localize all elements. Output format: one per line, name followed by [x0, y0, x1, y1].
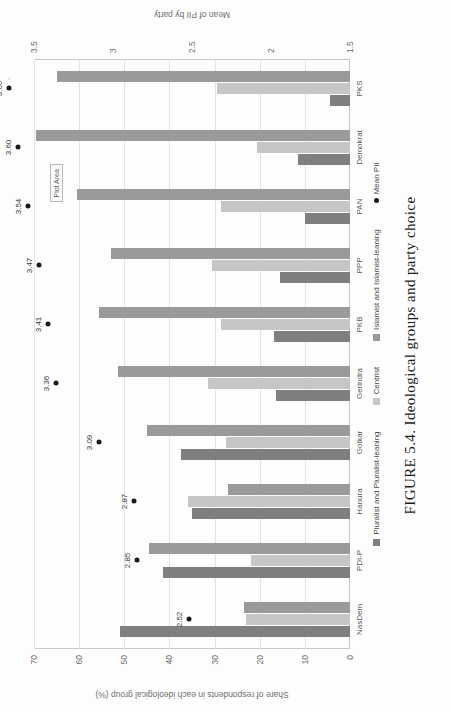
mean-pii-point — [6, 86, 11, 91]
figure-caption: FIGURE 5.4. Ideological groups and party… — [402, 0, 419, 711]
y-axis-title-right: Mean of PII by party — [154, 10, 230, 20]
bar-group: PKB — [34, 295, 350, 354]
bar-group: Golkar — [34, 413, 350, 472]
bar-group: PAN — [34, 177, 350, 236]
y-tick-label-left: 40 — [164, 655, 174, 664]
category-label: Hanura — [355, 472, 364, 531]
legend-label: Centrist — [372, 367, 381, 395]
y-tick-label-left: 60 — [74, 655, 84, 664]
bar-series-2 — [118, 366, 350, 377]
mean-pii-point — [186, 617, 191, 622]
bar-series-1 — [246, 614, 350, 625]
bar-series-0 — [276, 390, 350, 401]
plot-area-callout: Plot Area — [50, 164, 63, 202]
bar-series-1 — [221, 319, 350, 330]
bar-stack — [34, 413, 350, 472]
bar-series-0 — [192, 508, 350, 519]
mean-pii-point — [54, 381, 59, 386]
bar-series-0 — [274, 331, 350, 342]
mean-pii-point — [134, 558, 139, 563]
mean-pii-point — [96, 440, 101, 445]
bar-series-0 — [120, 626, 350, 637]
legend-item: Centrist — [372, 367, 381, 406]
bar-series-0 — [305, 213, 350, 224]
bar-series-1 — [212, 260, 350, 271]
mean-pii-point — [46, 322, 51, 327]
mean-pii-label: 3.47 — [25, 258, 34, 274]
series-0-swatch — [373, 539, 380, 546]
series-2-swatch — [373, 334, 380, 341]
bar-series-2 — [99, 307, 350, 318]
y-tick-label-right: 1.5 — [345, 41, 355, 53]
plot-inner: 0102030405060701.522.533.5NasDem2.52PDI-… — [34, 59, 350, 649]
mean-pii-label: 3.41 — [34, 317, 43, 333]
y-tick-label-right: 2.5 — [187, 41, 197, 53]
bar-series-1 — [217, 83, 350, 94]
bar-series-0 — [163, 567, 350, 578]
bar-series-2 — [36, 130, 350, 141]
bar-group: PPP — [34, 236, 350, 295]
bar-series-1 — [226, 437, 350, 448]
bar-series-1 — [221, 201, 350, 212]
y-tick-label-left: 30 — [210, 655, 220, 664]
category-label: Golkar — [355, 413, 364, 472]
bar-stack — [34, 354, 350, 413]
mean-pii-point — [36, 263, 41, 268]
y-tick-label-left: 50 — [119, 655, 129, 664]
bar-group: NasDem — [34, 590, 350, 649]
mean-pii-label: 2.52 — [175, 612, 184, 628]
bar-series-0 — [181, 449, 350, 460]
legend-label: Islamist and Islamist-leaning — [372, 229, 381, 329]
bar-stack — [34, 531, 350, 590]
bar-series-0 — [330, 95, 350, 106]
legend-label: Pluralist and Pluralist-leaning — [372, 431, 381, 534]
category-label: Demokrat — [355, 118, 364, 177]
bar-group: Demokrat — [34, 118, 350, 177]
y-tick-label-right: 3 — [108, 48, 118, 53]
bar-series-2 — [149, 543, 350, 554]
chart-legend: Pluralist and Pluralist-leaningCentristI… — [372, 59, 381, 649]
category-label: PKS — [355, 59, 364, 118]
category-label: PPP — [355, 236, 364, 295]
y-tick-label-right: 3.5 — [29, 41, 39, 53]
category-label: NasDem — [355, 590, 364, 649]
mean-pii-marker — [374, 198, 379, 203]
bar-group: Hanura — [34, 472, 350, 531]
category-label: PAN — [355, 177, 364, 236]
chart-plot-area: Share of respondents in each ideological… — [34, 59, 350, 649]
bar-series-1 — [251, 555, 350, 566]
bar-series-2 — [111, 248, 350, 259]
bar-series-1 — [257, 142, 350, 153]
legend-item: Mean PII — [372, 162, 381, 203]
y-tick-label-left: 0 — [345, 655, 355, 660]
bar-series-2 — [147, 425, 350, 436]
bar-stack — [34, 472, 350, 531]
y-axis-title-left: Share of respondents in each ideological… — [95, 690, 288, 700]
bar-stack — [34, 236, 350, 295]
category-label: Gerindra — [355, 354, 364, 413]
mean-pii-label: 3.66 — [0, 81, 4, 97]
bar-group: PKS — [34, 59, 350, 118]
bar-stack — [34, 59, 350, 118]
series-1-swatch — [373, 398, 380, 405]
mean-pii-label: 2.87 — [120, 494, 129, 510]
bar-group: Gerindra — [34, 354, 350, 413]
y-tick-label-left: 10 — [300, 655, 310, 664]
bar-stack — [34, 118, 350, 177]
bar-series-2 — [228, 484, 350, 495]
legend-item: Islamist and Islamist-leaning — [372, 229, 381, 340]
bar-series-2 — [244, 602, 350, 613]
y-tick-label-left: 20 — [255, 655, 265, 664]
mean-pii-point — [131, 499, 136, 504]
legend-label: Mean PII — [372, 162, 381, 194]
y-tick-label-left: 70 — [29, 655, 39, 664]
legend-item: Pluralist and Pluralist-leaning — [372, 431, 381, 545]
y-tick-label-right: 2 — [266, 48, 276, 53]
bar-series-0 — [280, 272, 350, 283]
mean-pii-point — [16, 145, 21, 150]
figure-page: Share of respondents in each ideological… — [0, 0, 453, 711]
category-label: PKB — [355, 295, 364, 354]
category-label: PDI-P — [355, 531, 364, 590]
mean-pii-point — [25, 204, 30, 209]
bar-series-1 — [188, 496, 351, 507]
